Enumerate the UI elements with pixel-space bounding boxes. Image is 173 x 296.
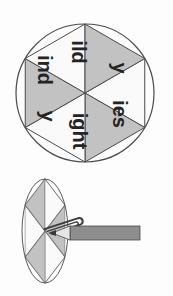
spinner-label-ies: ies [109,100,131,128]
diagram-stage: ild y ies ight y ind [0,0,173,296]
spinner-label-ild: ild [68,40,90,63]
spinner-label-ight: ight [69,113,91,150]
spinner-label-y-lower: y [37,110,59,122]
worksheet-page: ild y ies ight y ind [0,0,173,296]
spinner-label-ind: ind [34,55,56,85]
spinner-label-y-upper: y [109,62,131,74]
spinner-diagram-svg: ild y ies ight y ind [0,0,173,296]
word-ending-spinner[interactable]: ild y ies ight y ind [16,24,154,162]
pencil-body [70,226,140,240]
pencil-paperclip-spinner-demo [22,179,140,283]
